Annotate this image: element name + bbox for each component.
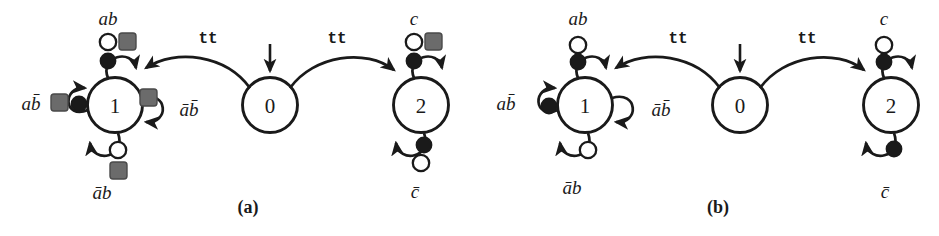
state-diagram-figure: 1 0 2 tt tt ab ab̄ (0, 0, 939, 236)
gray-square-marker (119, 33, 136, 50)
filled-circle-marker (416, 137, 431, 152)
panel-caption-a: (a) (238, 197, 259, 218)
open-circle-marker (876, 37, 892, 53)
state-node-label: 1 (110, 94, 121, 118)
self-loop-label: āb (93, 182, 112, 203)
self-loop-1-left[interactable]: ab̄ (497, 88, 559, 114)
self-loop-1-bottom[interactable]: āb (90, 133, 127, 203)
self-loop-label: c̄ (411, 181, 420, 202)
self-loop-label: c̄ (881, 181, 890, 202)
state-node-0[interactable]: 0 (243, 78, 298, 133)
panel-caption-b: (b) (707, 197, 729, 218)
self-loop-1-bottom[interactable]: āb (560, 133, 596, 198)
self-loop-label: c (410, 8, 419, 29)
state-node-2[interactable]: 2 (394, 78, 449, 133)
self-loop-label: c (880, 8, 889, 29)
filled-circle-marker (570, 54, 585, 69)
open-circle-marker (413, 155, 429, 171)
gray-square-marker (140, 89, 157, 106)
open-circle-marker (110, 142, 126, 158)
self-loop-label: āb̄ (180, 99, 199, 120)
open-circle-marker (406, 34, 422, 50)
self-loop-2-top[interactable]: c (876, 8, 912, 78)
transition-label-0-to-2: tt (327, 30, 346, 48)
filled-circle-marker (100, 53, 115, 68)
transition-arrow-0-to-1[interactable] (616, 57, 720, 88)
open-circle-marker (580, 142, 596, 158)
state-node-label: 2 (886, 94, 897, 118)
transition-label-0-to-1: tt (198, 30, 217, 48)
gray-square-marker (51, 94, 68, 111)
transition-arrow-0-to-2[interactable] (760, 57, 864, 88)
self-loop-path[interactable] (612, 97, 633, 122)
self-loop-1-left[interactable]: ab̄ (22, 88, 89, 114)
self-loop-label: ab (99, 8, 118, 29)
panel-b: 1 0 2 tt tt ab ab̄ (497, 8, 919, 218)
state-node-0[interactable]: 0 (713, 78, 768, 133)
self-loop-label: ab̄ (22, 93, 41, 114)
filled-circle-marker (71, 96, 86, 111)
self-loop-1-top[interactable]: ab (99, 8, 137, 78)
state-node-1[interactable]: 1 (558, 78, 613, 133)
filled-circle-marker (406, 53, 421, 68)
transition-label-0-to-1: tt (668, 30, 687, 48)
panel-a: 1 0 2 tt tt ab ab̄ (22, 8, 449, 218)
gray-square-marker (110, 162, 127, 179)
filled-circle-marker (886, 141, 901, 156)
gray-square-marker (425, 33, 442, 50)
state-node-label: 2 (416, 94, 427, 118)
figure-canvas: 1 0 2 tt tt ab ab̄ (0, 0, 939, 236)
transition-arrow-0-to-1[interactable] (146, 57, 250, 88)
self-loop-label: ab̄ (497, 93, 516, 114)
self-loop-1-right[interactable]: āb̄ (140, 89, 199, 122)
transition-arrow-0-to-2[interactable] (290, 57, 394, 88)
self-loop-2-bottom[interactable]: c̄ (396, 133, 432, 202)
open-circle-marker (100, 34, 116, 50)
transition-label-0-to-2: tt (797, 30, 816, 48)
state-node-label: 1 (580, 94, 591, 118)
self-loop-2-top[interactable]: c (406, 8, 442, 78)
self-loop-label: āb̄ (652, 99, 671, 120)
state-node-label: 0 (265, 94, 276, 118)
filled-circle-marker (876, 54, 891, 69)
self-loop-1-right[interactable]: āb̄ (612, 97, 671, 122)
filled-circle-marker (541, 98, 556, 113)
open-circle-marker (570, 37, 586, 53)
state-node-label: 0 (735, 94, 746, 118)
state-node-2[interactable]: 2 (864, 78, 919, 133)
self-loop-label: āb (563, 177, 582, 198)
self-loop-1-top[interactable]: ab (569, 8, 607, 78)
self-loop-2-bottom[interactable]: c̄ (866, 133, 902, 202)
self-loop-label: ab (569, 8, 588, 29)
state-node-1[interactable]: 1 (88, 78, 143, 133)
